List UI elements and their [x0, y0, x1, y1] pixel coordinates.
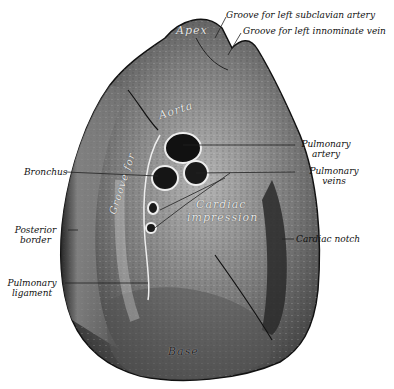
- label-pulmonary-veins: Pulmonary veins: [304, 166, 364, 186]
- label-cardiac-notch: Cardiac notch: [296, 234, 360, 244]
- label-pulmonary-ligament: Pulmonary ligament: [2, 278, 62, 298]
- label-impression: impression: [187, 211, 258, 224]
- label-groove-subclavian: Groove for left subclavian artery: [226, 10, 375, 20]
- label-apex: Apex: [176, 24, 208, 37]
- lung-illustration: [0, 0, 394, 389]
- label-base: Base: [168, 345, 199, 358]
- lung-diagram: Apex Aorta Groove for Cardiac impression…: [0, 0, 394, 389]
- label-groove-innominate: Groove for left innominate vein: [243, 26, 386, 36]
- label-cardiac: Cardiac: [196, 198, 247, 211]
- label-pulmonary-artery: Pulmonary artery: [296, 139, 356, 159]
- label-bronchus: Bronchus: [24, 167, 67, 177]
- label-posterior-border: Posterior border: [8, 225, 63, 245]
